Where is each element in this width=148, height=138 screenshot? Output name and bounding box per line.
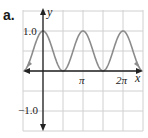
x-tick-2pi: 2π: [116, 74, 128, 86]
y-axis-label: y: [46, 5, 53, 19]
curve-arrow: [26, 61, 32, 68]
x-tick-pi: π: [79, 74, 85, 86]
y-tick-1: 1.0: [23, 25, 37, 37]
y-axis-arrow-down: [40, 124, 46, 131]
cos-squared-chart: y x 1.0 −1.0 π 2π: [0, 0, 148, 138]
y-tick-neg1: −1.0: [18, 104, 38, 116]
curve-arrow: [134, 61, 140, 68]
x-axis-label: x: [134, 71, 141, 85]
